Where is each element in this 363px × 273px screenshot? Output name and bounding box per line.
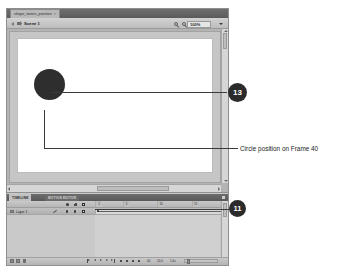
layer-name-label[interactable]: Layer 1 [16, 209, 27, 215]
circle-shape[interactable] [34, 69, 65, 100]
stage-horizontal-scrollbar[interactable] [7, 184, 221, 192]
callout-11-number: 11 [234, 204, 242, 213]
layer-lock-toggle[interactable] [74, 210, 76, 212]
last-frame-icon[interactable] [111, 259, 115, 263]
leader-line-horizontal [44, 148, 238, 149]
edit-bar: Scene 1 100% [7, 18, 228, 29]
ruler-tick[interactable]: 10 [157, 201, 164, 208]
edit-scene-icon[interactable] [174, 21, 180, 27]
tab-timeline[interactable]: TIMELINE [9, 194, 31, 201]
chevron-down-icon[interactable] [219, 23, 223, 25]
first-frame-icon[interactable] [87, 259, 91, 263]
zoom-select[interactable]: 100% [187, 21, 211, 28]
step-forward-icon[interactable] [105, 259, 109, 263]
ruler-tick-label: 5 [124, 202, 130, 207]
elapsed-time-readout: 1.6s [170, 259, 176, 264]
document-tab[interactable]: shape_tween_position × [10, 9, 60, 18]
leader-line-13 [52, 92, 227, 93]
timeline-status-bar: 40 24.0 1.6s [7, 257, 228, 265]
leader-line-11 [95, 209, 229, 210]
outline-icon[interactable] [82, 203, 85, 206]
pasteboard[interactable] [9, 31, 221, 183]
scroll-up-icon[interactable] [224, 30, 228, 32]
fps-readout[interactable]: 24.0 [157, 259, 163, 264]
edit-multiple-icon[interactable] [131, 259, 135, 263]
scene-icon [17, 21, 22, 26]
frame-ruler[interactable]: 151015202530354045 [95, 201, 221, 208]
ruler-tick-label: 10 [158, 202, 164, 207]
document-tab-bar: shape_tween_position × [7, 9, 228, 18]
scroll-right-icon[interactable] [218, 187, 220, 191]
delete-layer-icon[interactable] [23, 259, 26, 263]
tween-line [97, 211, 221, 212]
timeline-zoom-slider[interactable] [184, 259, 218, 263]
modify-markers-icon[interactable] [137, 259, 141, 263]
leader-line-vertical [44, 110, 45, 148]
frames-body[interactable] [95, 215, 220, 257]
ruler-tick[interactable]: 1 [95, 201, 102, 208]
stage-area [7, 29, 228, 193]
callout-11: 11 [229, 200, 246, 217]
slider-knob[interactable] [187, 259, 190, 264]
scrollbar-thumb[interactable] [97, 186, 169, 191]
tab-motion-editor[interactable]: MOTION EDITOR [45, 194, 79, 201]
layer-icon [10, 210, 14, 213]
stage-canvas[interactable] [17, 38, 213, 173]
lock-icon[interactable] [74, 203, 77, 206]
callout-13: 13 [228, 83, 247, 102]
annotation-circle-position: Circle position on Frame 40 [240, 144, 318, 153]
current-frame-readout: 40 [147, 259, 150, 264]
pencil-icon [53, 210, 57, 213]
scroll-left-icon[interactable] [8, 187, 10, 191]
timeline-panel: TIMELINE MOTION EDITOR 15101520253035404… [7, 194, 228, 265]
timeline-tab-bar: TIMELINE MOTION EDITOR [7, 194, 228, 201]
new-layer-icon[interactable] [10, 259, 14, 263]
stage-vertical-scrollbar[interactable] [221, 29, 228, 183]
ruler-tick[interactable]: 5 [123, 201, 130, 208]
back-arrow-icon[interactable] [11, 22, 14, 26]
ruler-tick[interactable]: 15 [192, 201, 199, 208]
ruler-tick-label: 15 [193, 202, 199, 207]
tab-motion-editor-label: MOTION EDITOR [48, 196, 76, 200]
layer-outline-toggle[interactable] [82, 210, 85, 213]
callout-13-number: 13 [233, 88, 242, 97]
new-folder-icon[interactable] [16, 259, 20, 263]
zoom-value: 100% [190, 22, 200, 28]
layer-eye-toggle[interactable] [66, 210, 68, 212]
onion-skin-icon[interactable] [119, 259, 123, 263]
play-icon[interactable] [99, 259, 103, 263]
timeline-body [7, 215, 228, 257]
scroll-down-icon[interactable] [224, 180, 228, 182]
scene-label[interactable]: Scene 1 [24, 20, 40, 27]
eye-icon[interactable] [66, 203, 69, 206]
panel-menu-icon[interactable] [222, 196, 225, 199]
scrollbar-thumb[interactable] [223, 33, 227, 49]
tab-timeline-label: TIMELINE [12, 196, 28, 200]
onion-outline-icon[interactable] [125, 259, 129, 263]
ruler-tick-label: 1 [96, 202, 102, 207]
step-back-icon[interactable] [93, 259, 97, 263]
scrollbar-thumb[interactable] [223, 203, 227, 217]
flash-application-window: shape_tween_position × Scene 1 100% [6, 8, 229, 266]
